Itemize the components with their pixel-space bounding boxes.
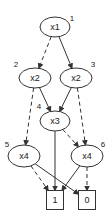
node-variable-label: x2 [71,73,81,83]
node-variable-label: x1 [50,22,60,32]
edge-n4-n6-dashed [63,130,79,147]
decision-node-5: x45 [5,140,40,167]
decision-node-4: x34 [37,102,70,131]
decision-node-6: x46 [71,140,106,167]
terminal-node-0: 0 [79,191,96,210]
node-variable-label: x3 [50,116,60,126]
edge-n5-t0-solid [35,164,78,194]
edge-n1-n2-dashed [39,37,51,69]
node-variable-label: 1 [52,195,57,205]
node-variable-label: x2 [30,73,40,83]
node-number-label: 1 [70,14,75,23]
node-number-label: 3 [91,60,96,69]
edge-n3-n4-solid [60,88,72,112]
node-variable-label: x4 [19,151,29,161]
edge-n3-n6-dashed [77,88,85,145]
node-number-label: 4 [37,102,42,111]
node-number-label: 5 [5,140,10,149]
edge-n5-t1-dashed [31,166,48,191]
decision-node-2: x22 [14,60,51,88]
edge-n2-n5-dashed [26,88,34,145]
decision-node-1: x11 [40,14,75,37]
node-variable-label: x4 [82,151,92,161]
terminal-node-1: 1 [47,191,64,210]
edge-n1-n3-solid [59,37,72,69]
decision-node-3: x23 [60,60,96,88]
node-number-label: 2 [14,60,19,69]
bdd-diagram: x11x22x23x34x45x4610 [0,0,109,223]
node-variable-label: 0 [84,195,89,205]
edge-n6-t1-solid [62,166,80,191]
node-number-label: 6 [101,140,106,149]
